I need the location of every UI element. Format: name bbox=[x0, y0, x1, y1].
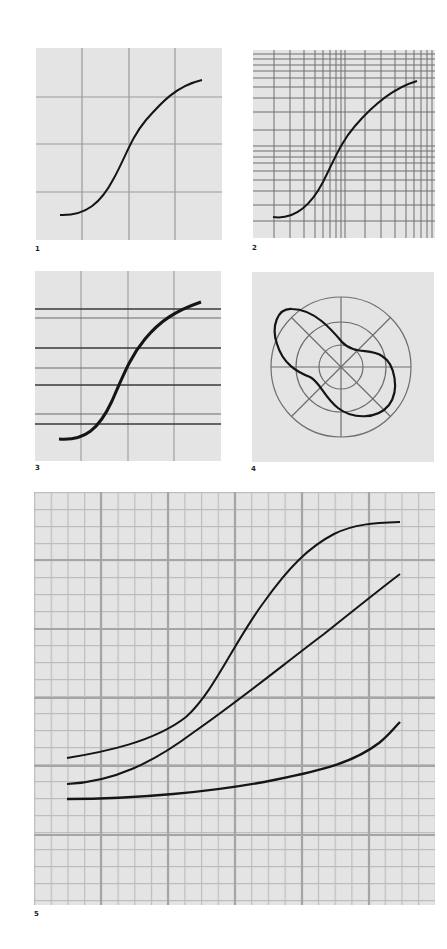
figure-1-chart bbox=[36, 48, 222, 240]
figure-4-panel bbox=[252, 272, 434, 462]
figure-2-label: 2 bbox=[252, 244, 257, 252]
figure-1-panel bbox=[36, 48, 222, 240]
figure-2-panel bbox=[253, 50, 435, 238]
figure-4-polar-chart bbox=[252, 272, 434, 462]
figure-5-chart bbox=[34, 492, 435, 905]
figure-3-label: 3 bbox=[35, 464, 40, 472]
figure-5-panel bbox=[34, 492, 435, 905]
figure-5-label: 5 bbox=[34, 910, 39, 918]
figure-1-label: 1 bbox=[35, 245, 40, 253]
figure-4-label: 4 bbox=[251, 465, 256, 473]
figure-3-chart bbox=[35, 271, 221, 461]
figure-2-chart bbox=[253, 50, 435, 238]
figure-3-panel bbox=[35, 271, 221, 461]
s-curve bbox=[59, 302, 201, 439]
s-curve bbox=[60, 80, 202, 215]
polar-curve bbox=[275, 309, 395, 416]
